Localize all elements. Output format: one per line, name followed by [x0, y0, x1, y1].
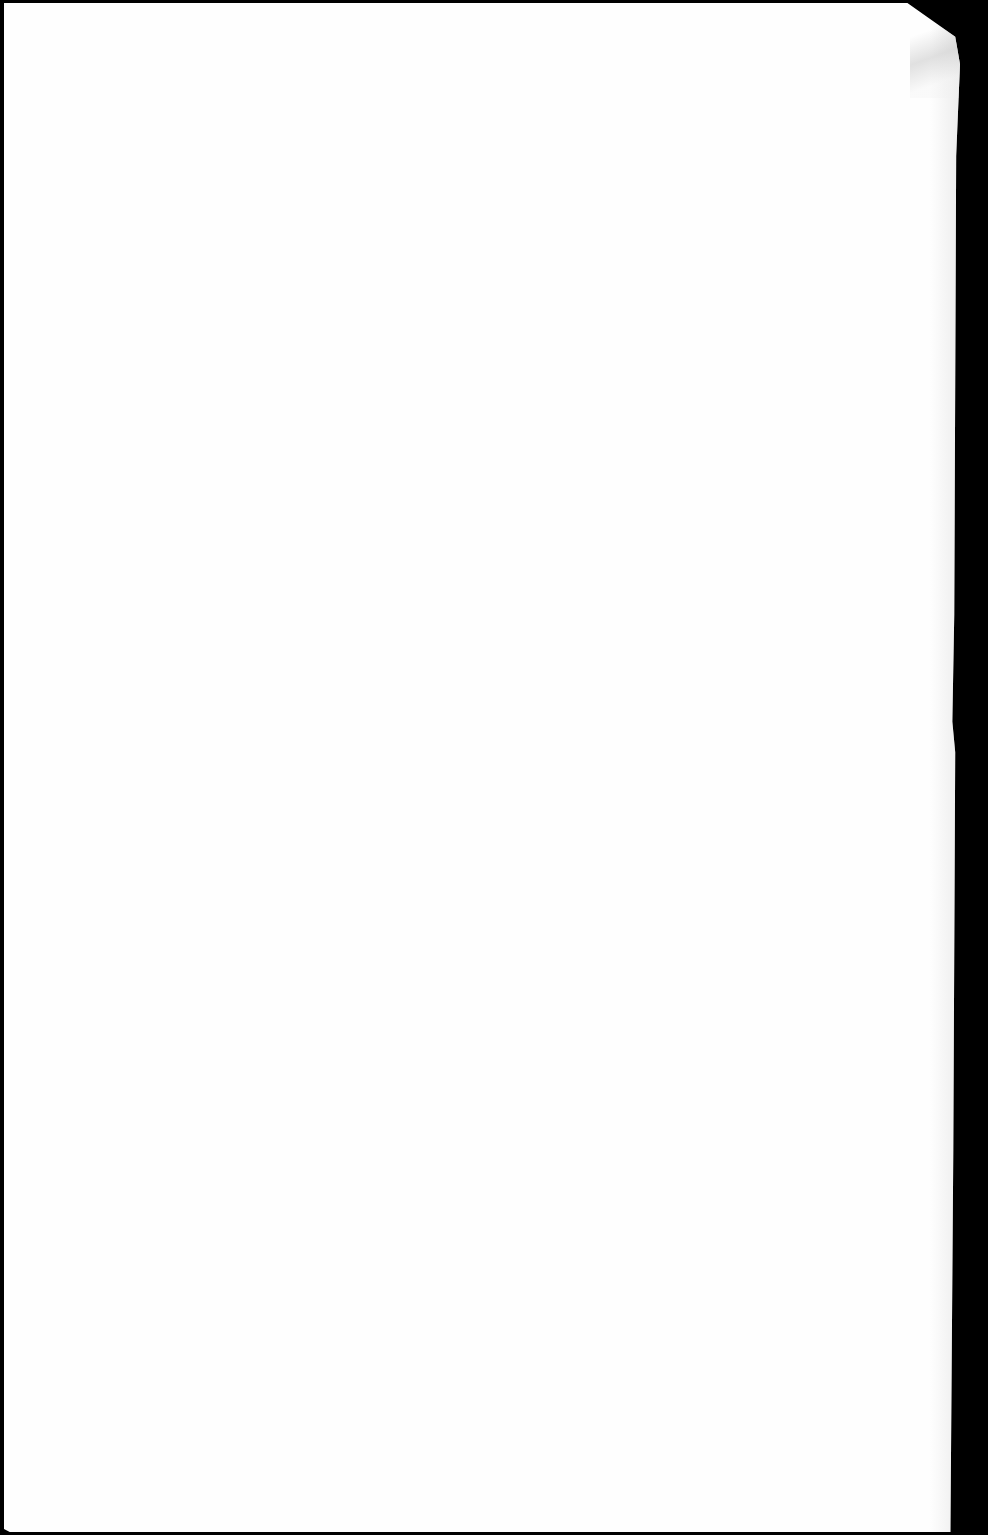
page-content — [74, 63, 890, 1472]
scanner-background — [0, 0, 988, 1535]
folded-corner — [910, 3, 960, 98]
page-edge-shadow — [930, 3, 960, 1532]
blank-page — [4, 3, 960, 1532]
